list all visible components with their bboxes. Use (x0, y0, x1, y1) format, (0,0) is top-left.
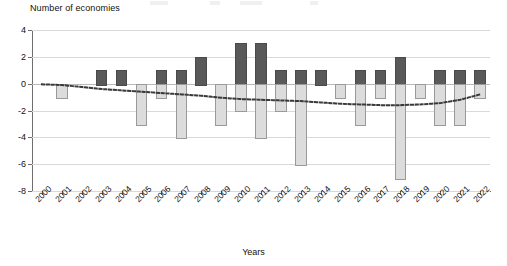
bar-column (195, 30, 207, 191)
bar-positive (116, 70, 128, 85)
bar-positive (235, 43, 247, 85)
legend-cropped-remnant (150, 0, 350, 6)
bar-column (255, 30, 267, 191)
bar-negative (136, 84, 148, 126)
chart-root: Number of economies 420-2-4-6-8 20002001… (0, 0, 507, 266)
y-tick-label: 4 (0, 25, 26, 35)
bar-column (434, 30, 446, 191)
bar-column (76, 30, 88, 191)
y-tick-mark (28, 137, 32, 138)
bar-positive (395, 57, 407, 86)
bar-negative (56, 84, 68, 99)
y-tick-label: 2 (0, 52, 26, 62)
y-tick-mark (28, 111, 32, 112)
bar-negative (375, 84, 387, 99)
y-tick-mark (28, 30, 32, 31)
bar-group (32, 30, 490, 191)
bar-negative (454, 84, 466, 126)
bar-negative (215, 84, 227, 126)
bar-column (215, 30, 227, 191)
bar-column (315, 30, 327, 191)
bar-column (156, 30, 168, 191)
bar-column (116, 30, 128, 191)
y-axis-title: Number of economies (30, 3, 120, 13)
y-tick-label: -8 (0, 186, 26, 196)
bar-column (176, 30, 188, 191)
y-tick-mark (28, 191, 32, 192)
bar-column (235, 30, 247, 191)
bar-negative (275, 84, 287, 113)
y-tick-label: -2 (0, 106, 26, 116)
y-tick-mark (28, 57, 32, 58)
bar-column (375, 30, 387, 191)
bar-column (395, 30, 407, 191)
bar-column (96, 30, 108, 191)
bar-column (335, 30, 347, 191)
bar-negative (434, 84, 446, 126)
x-axis-title: Years (0, 247, 507, 257)
y-tick-label: -6 (0, 159, 26, 169)
bar-column (36, 30, 48, 191)
bar-negative (355, 84, 367, 126)
plot-area (32, 30, 490, 191)
bar-column (136, 30, 148, 191)
bar-column (355, 30, 367, 191)
bar-negative (255, 84, 267, 140)
bar-negative (395, 84, 407, 180)
bar-column (474, 30, 486, 191)
bar-negative (235, 84, 247, 113)
bar-positive (255, 43, 267, 85)
bar-negative (335, 84, 347, 99)
bar-column (56, 30, 68, 191)
y-tick-mark (28, 84, 32, 85)
bar-positive (315, 70, 327, 85)
bar-negative (156, 84, 168, 99)
bar-negative (415, 84, 427, 99)
bar-positive (195, 57, 207, 86)
bar-positive (96, 70, 108, 85)
y-tick-label: 0 (0, 79, 26, 89)
bar-negative (176, 84, 188, 140)
y-tick-label: -4 (0, 132, 26, 142)
bar-column (275, 30, 287, 191)
bar-negative (474, 84, 486, 99)
bar-column (295, 30, 307, 191)
bar-column (415, 30, 427, 191)
y-tick-mark (28, 164, 32, 165)
bar-negative (295, 84, 307, 167)
bar-column (454, 30, 466, 191)
